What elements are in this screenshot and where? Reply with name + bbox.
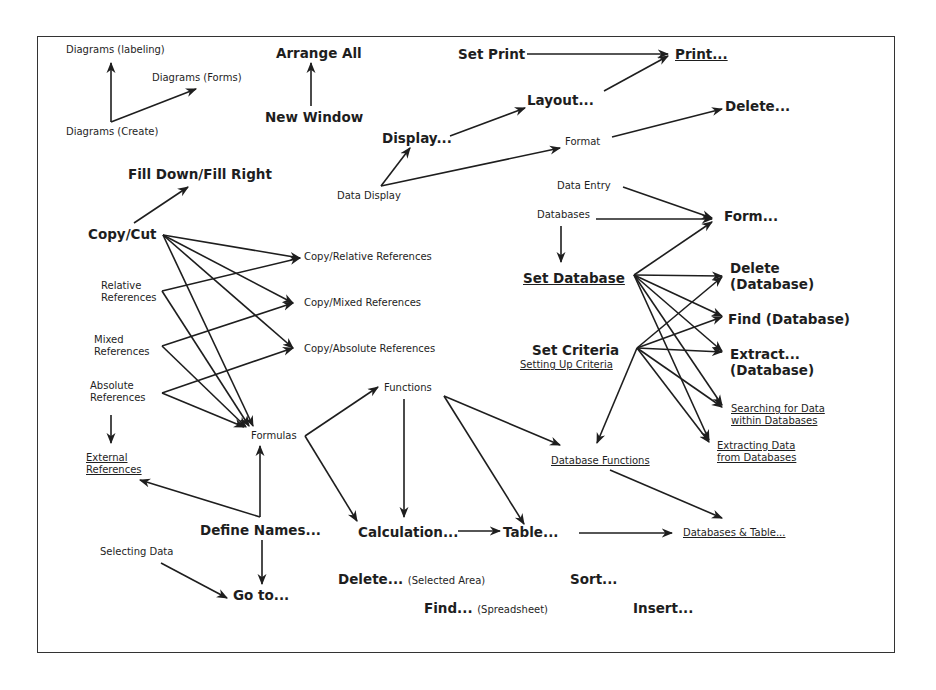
node-data-display: Data Display (337, 190, 401, 202)
arrow-set-criteria-to-searching-data (637, 348, 722, 407)
arrow-absolute-refs-to-copy-absolute (162, 348, 293, 393)
arrow-functions-to-table (444, 396, 524, 524)
node-label: Display... (382, 130, 452, 146)
node-label-line: References (101, 292, 157, 304)
node-label-line: within Databases (731, 415, 825, 427)
node-selecting-data: Selecting Data (100, 546, 173, 558)
arrow-data-display-to-format (381, 148, 560, 186)
arrow-relative-refs-to-copy-relative (162, 258, 300, 291)
node-diagrams-labeling: Diagrams (labeling) (66, 44, 165, 56)
node-arrange-all: Arrange All (276, 45, 362, 61)
node-label: Data Display (337, 190, 401, 201)
node-data-entry: Data Entry (557, 180, 611, 192)
arrow-data-entry-to-form (623, 187, 712, 218)
node-absolute-refs: AbsoluteReferences (90, 380, 146, 404)
node-label: Print... (675, 46, 728, 62)
node-go-to: Go to... (233, 587, 289, 603)
node-find-spreadsheet: Find... (Spreadsheet) (424, 600, 548, 616)
node-delete-format: Delete... (725, 98, 790, 114)
node-label: Go to... (233, 587, 289, 603)
node-label: Formulas (251, 430, 297, 441)
node-relative-refs: RelativeReferences (101, 280, 157, 304)
node-label: Format (565, 136, 600, 147)
node-formulas: Formulas (251, 430, 297, 442)
node-label: Diagrams (labeling) (66, 44, 165, 55)
node-set-print: Set Print (458, 46, 525, 62)
node-find-db: Find (Database) (728, 311, 850, 327)
node-label-line: Delete (730, 260, 814, 276)
node-insert: Insert... (633, 600, 693, 616)
node-calculation: Calculation... (358, 524, 458, 540)
node-layout: Layout... (527, 92, 594, 108)
node-label: Functions (384, 382, 432, 393)
node-define-names: Define Names... (200, 522, 321, 538)
node-label-line: References (90, 392, 146, 404)
node-label: Insert... (633, 600, 693, 616)
node-sublabel: (Spreadsheet) (477, 604, 548, 615)
node-label-line: Searching for Data (731, 403, 825, 415)
node-diagrams-forms: Diagrams (Forms) (152, 72, 242, 84)
node-label-line: Extracting Data (717, 440, 796, 452)
node-form: Form... (724, 208, 778, 224)
node-label: Find... (424, 600, 473, 616)
node-searching-data: Searching for Datawithin Databases (731, 403, 825, 427)
node-copy-mixed: Copy/Mixed References (304, 297, 421, 309)
node-label: Form... (724, 208, 778, 224)
node-sublabel: (Selected Area) (408, 575, 485, 586)
node-copy-absolute: Copy/Absolute References (304, 343, 435, 355)
node-label-line: Extract... (730, 346, 814, 362)
node-label: Databases & Table... (683, 527, 785, 538)
node-label-line: (Database) (730, 362, 814, 378)
node-label: Set Print (458, 46, 525, 62)
node-label-line: References (86, 464, 142, 476)
arrow-set-database-to-form (634, 222, 712, 275)
node-label-line: Mixed (94, 334, 150, 346)
node-mixed-refs: MixedReferences (94, 334, 150, 358)
arrow-selecting-data-to-go-to (161, 563, 227, 598)
node-label: New Window (265, 109, 363, 125)
arrow-functions-to-database-functions (444, 396, 560, 445)
arrow-copy-cut-to-fill-down (134, 187, 188, 223)
node-label-line: Relative (101, 280, 157, 292)
node-setting-up-criteria: Setting Up Criteria (520, 359, 613, 371)
node-delete-selected: Delete... (Selected Area) (338, 571, 485, 587)
node-label: Arrange All (276, 45, 362, 61)
node-label: Define Names... (200, 522, 321, 538)
node-functions: Functions (384, 382, 432, 394)
node-label: Diagrams (Forms) (152, 72, 242, 83)
arrow-layout-to-print (604, 56, 668, 91)
node-label: Set Criteria (532, 342, 619, 358)
node-copy-relative: Copy/Relative References (304, 251, 432, 263)
node-set-criteria: Set Criteria (532, 342, 619, 358)
node-label: Diagrams (Create) (66, 126, 158, 137)
node-label-line: from Databases (717, 452, 796, 464)
node-label-line: Absolute (90, 380, 146, 392)
node-label: Table... (503, 524, 558, 540)
node-new-window: New Window (265, 109, 363, 125)
node-label: Layout... (527, 92, 594, 108)
node-label: Delete... (338, 571, 403, 587)
node-label: Copy/Mixed References (304, 297, 421, 308)
node-extract-db: Extract...(Database) (730, 346, 814, 378)
node-label: Copy/Absolute References (304, 343, 435, 354)
node-sort: Sort... (570, 571, 618, 587)
node-display: Display... (382, 130, 452, 146)
node-databases: Databases (537, 209, 590, 221)
node-label-line: References (94, 346, 150, 358)
node-label: Copy/Cut (88, 226, 157, 242)
node-table: Table... (503, 524, 558, 540)
arrow-mixed-refs-to-formulas (162, 346, 246, 427)
node-label: Setting Up Criteria (520, 359, 613, 370)
node-set-database: Set Database (523, 270, 625, 286)
arrow-database-functions-to-databases-table (610, 470, 722, 518)
node-label: Selecting Data (100, 546, 173, 557)
node-extracting-data: Extracting Datafrom Databases (717, 440, 796, 464)
node-label: Data Entry (557, 180, 611, 191)
node-fill-down: Fill Down/Fill Right (128, 166, 272, 182)
node-label-line: (Database) (730, 276, 814, 292)
node-diagrams-create: Diagrams (Create) (66, 126, 158, 138)
arrow-set-criteria-to-extract-db (637, 348, 722, 352)
node-print: Print... (675, 46, 728, 62)
arrow-display-to-layout (450, 108, 525, 136)
node-database-functions: Database Functions (551, 455, 650, 467)
